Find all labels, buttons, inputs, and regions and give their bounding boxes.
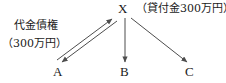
edge-x-to-a bbox=[62, 21, 117, 62]
node-label-a: A bbox=[53, 65, 62, 78]
edge-x-to-c bbox=[131, 18, 187, 62]
node-label-c: C bbox=[185, 65, 194, 78]
node-label-b: B bbox=[120, 65, 129, 78]
annotation-loan-amount: （貸付金300万円） bbox=[136, 2, 226, 16]
annotation-claim-title: 代金債権 bbox=[14, 19, 58, 33]
node-label-x: X bbox=[118, 2, 127, 15]
annotation-claim-amount: （300万円） bbox=[2, 37, 67, 51]
diagram-canvas: X A B C （貸付金300万円） 代金債権 （300万円） bbox=[0, 0, 226, 83]
